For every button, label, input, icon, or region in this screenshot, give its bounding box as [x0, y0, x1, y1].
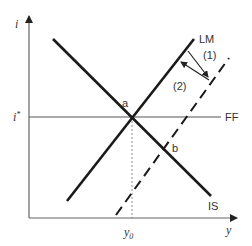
arrow-2-label: (2) [173, 80, 186, 92]
x-axis-label: y [225, 223, 232, 237]
lm-curve [67, 39, 194, 201]
point-a-label: a [122, 97, 129, 109]
arrow-2 [181, 62, 209, 80]
lm-label: LM [199, 33, 214, 45]
is-lm-ff-diagram: i y i* y0 LM FF IS a b (1) (2) [0, 0, 252, 246]
y-axis-label: i [15, 17, 18, 31]
y0-label: y0 [123, 225, 133, 241]
point-b-label: b [172, 142, 178, 154]
arrow-1-label: (1) [203, 49, 216, 61]
ff-label: FF [225, 111, 239, 123]
is-label: IS [208, 200, 218, 212]
i-star-label: i* [13, 110, 20, 124]
